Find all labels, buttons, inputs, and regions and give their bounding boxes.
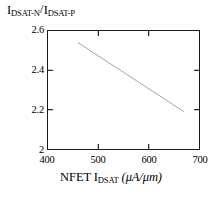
x-axis-tick-label: 400 bbox=[27, 155, 67, 165]
chart-figure: IDSAT-N/IDSAT-P 22.22.42.6 400500600700 … bbox=[0, 0, 222, 198]
x-axis-tick-label: 500 bbox=[78, 155, 118, 165]
data-series-group bbox=[78, 43, 184, 112]
axis-tick-marks bbox=[48, 31, 199, 149]
x-axis-tick-label: 700 bbox=[180, 155, 220, 165]
x-axis-label-subscript: DSAT bbox=[98, 175, 119, 185]
plot-area bbox=[47, 30, 200, 150]
x-axis-label-text: NFET I bbox=[60, 170, 98, 184]
x-axis-label-units: (μA/μm) bbox=[122, 170, 162, 184]
plot-canvas bbox=[48, 31, 199, 149]
x-axis-label: NFET IDSAT (μA/μm) bbox=[0, 170, 222, 185]
data-line-series-0 bbox=[78, 43, 184, 112]
x-axis-tick-label: 600 bbox=[129, 155, 169, 165]
